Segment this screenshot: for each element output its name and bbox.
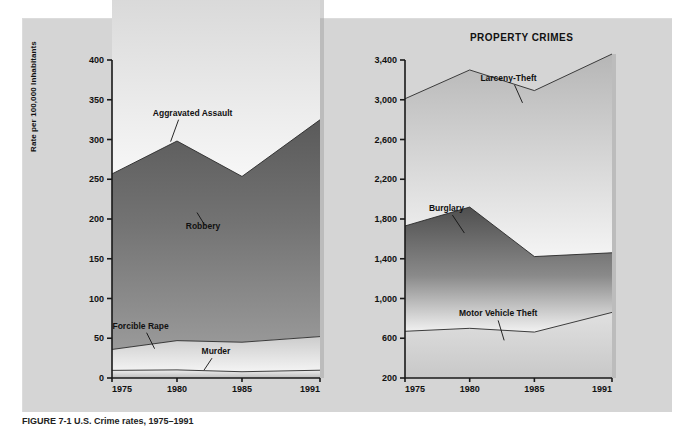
y-tick-label: 1,800 (374, 214, 397, 224)
x-tick-label: 1980 (167, 384, 187, 394)
y-tick-label: 200 (382, 373, 397, 383)
y-tick-label: 400 (89, 55, 104, 65)
x-tick-label: 1985 (232, 384, 252, 394)
x-tick-label: 1975 (112, 384, 132, 394)
y-tick-label: 50 (94, 333, 104, 343)
figure-caption: FIGURE 7-1 U.S. Crime rates, 1975–1991 (22, 416, 194, 427)
x-tick-label: 1985 (524, 384, 544, 394)
x-tick-label: 1991 (592, 384, 612, 394)
property-crimes-area-chart: 2006001,0001,4001,8002,2002,6003,0003,40… (345, 0, 689, 428)
y-tick-label: 250 (89, 174, 104, 184)
violent-crimes-area-chart: 0501001502002503003504001975198019851991… (0, 0, 345, 428)
y-tick-label: 3,000 (374, 95, 397, 105)
figure-root: VIOLENT CRIMES PROPERTY CRIMES Rate per … (0, 0, 689, 428)
x-tick-label: 1975 (405, 384, 425, 394)
y-tick-label: 300 (89, 135, 104, 145)
y-tick-label: 100 (89, 294, 104, 304)
y-tick-label: 1,400 (374, 254, 397, 264)
annotation-label: Forcible Rape (112, 321, 168, 331)
y-tick-label: 2,200 (374, 174, 397, 184)
annotation-label: Murder (202, 346, 232, 356)
annotation-label: Aggravated Assault (153, 108, 233, 118)
y-tick-label: 2,600 (374, 135, 397, 145)
y-tick-label: 200 (89, 214, 104, 224)
y-tick-label: 350 (89, 95, 104, 105)
y-tick-label: 1,000 (374, 294, 397, 304)
x-tick-label: 1980 (460, 384, 480, 394)
annotation-label: Motor Vehicle Theft (459, 308, 538, 318)
y-tick-label: 150 (89, 254, 104, 264)
y-tick-label: 3,400 (374, 55, 397, 65)
x-tick-label: 1991 (300, 384, 320, 394)
y-tick-label: 0 (99, 373, 104, 383)
y-tick-label: 600 (382, 333, 397, 343)
annotation-label: Burglary (429, 203, 464, 213)
annotation-label: Larceny-Theft (480, 73, 536, 83)
